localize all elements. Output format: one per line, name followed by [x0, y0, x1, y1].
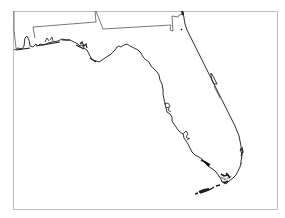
- coastline-south: [222, 163, 241, 184]
- lake-dot: [181, 29, 182, 30]
- map-frame: [14, 12, 278, 210]
- indian-river-lagoon: [214, 86, 220, 98]
- ten-thousand-islands: [201, 160, 210, 166]
- coastline-gulf: [121, 44, 225, 182]
- barrier-islands-panhandle: [16, 40, 96, 62]
- map-canvas: [0, 0, 285, 218]
- cape-canaveral: [211, 73, 217, 84]
- state-border-al-ga: [33, 11, 96, 38]
- everglades-hatch: [221, 173, 230, 178]
- state-border-alabama: [14, 11, 16, 48]
- coastline-atlantic: [183, 12, 242, 164]
- state-border-georgia: [96, 11, 183, 31]
- coast-jacksonville: [182, 11, 183, 15]
- bay-pensacola: [45, 37, 53, 42]
- florida-map: [0, 0, 285, 218]
